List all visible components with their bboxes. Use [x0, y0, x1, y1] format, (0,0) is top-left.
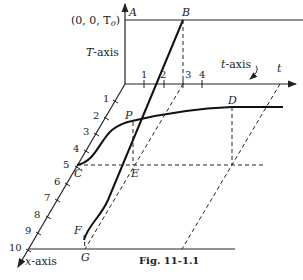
- point-B: B: [181, 6, 190, 19]
- x-axis-label: x-axis: [25, 255, 57, 268]
- figure-caption: Fig. 11-1.1: [139, 255, 199, 266]
- x-tick-9: 9: [25, 225, 31, 236]
- x-tick-7: 7: [44, 192, 50, 203]
- x-tick-5: 5: [63, 159, 69, 170]
- x-tick-2: 2: [93, 110, 99, 121]
- point-G: G: [81, 251, 90, 264]
- origin-label: (0, 0, T0): [71, 14, 120, 28]
- x-tick-1: 1: [103, 93, 109, 104]
- point-D: D: [227, 94, 237, 107]
- t-tick-3: 3: [185, 69, 191, 80]
- x-tick-4: 4: [73, 143, 79, 154]
- t-tick-1: 1: [141, 69, 147, 80]
- t-tick-4: 4: [199, 69, 205, 80]
- T-axis-label: T-axis: [86, 46, 119, 59]
- point-P: P: [124, 109, 133, 122]
- profile-curve-CPD: [77, 107, 283, 165]
- x-tick-8: 8: [34, 209, 40, 220]
- t-end-label: t: [277, 62, 282, 75]
- point-C: C: [74, 167, 83, 180]
- x-tick-3: 3: [83, 126, 89, 137]
- point-E: E: [130, 167, 139, 180]
- x-tick-6: 6: [54, 176, 60, 187]
- t-axis-label: t-axis: [221, 58, 251, 71]
- point-A: A: [128, 6, 137, 19]
- x-axis-line: [18, 84, 125, 267]
- diagram: 1 2 3 4 1 2 3 4 5 6 7 8 9 10 (0, 0, T: [0, 0, 303, 280]
- point-F: F: [73, 224, 82, 237]
- x-tick-10: 10: [9, 242, 22, 253]
